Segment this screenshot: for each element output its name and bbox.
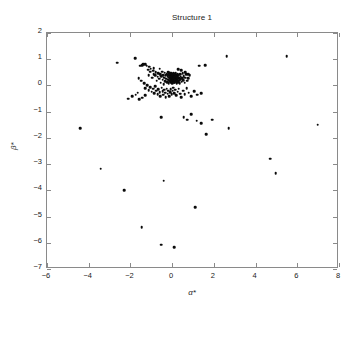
x-tick-label: 8 <box>336 271 340 280</box>
y-axis-tick <box>47 190 51 191</box>
data-point <box>186 118 189 121</box>
data-point <box>274 172 277 175</box>
data-point <box>200 122 203 125</box>
y-axis-label: β* <box>9 142 18 150</box>
x-axis-tick-top <box>89 33 90 37</box>
data-point <box>158 67 161 70</box>
data-point <box>165 96 168 99</box>
data-point <box>187 73 190 76</box>
y-axis-tick-right <box>333 33 337 34</box>
y-axis-tick-right <box>333 190 337 191</box>
chart-title: Structure 1 <box>46 13 338 22</box>
data-point <box>79 127 82 130</box>
y-axis-tick <box>47 269 51 270</box>
data-point <box>228 127 231 130</box>
data-point <box>123 189 126 192</box>
data-point <box>134 57 137 60</box>
data-point <box>204 64 207 67</box>
data-point <box>187 77 190 80</box>
plot-axes-box <box>46 32 338 268</box>
data-point <box>100 168 103 171</box>
y-axis-tick-right <box>333 112 337 113</box>
x-axis-tick <box>89 263 90 267</box>
data-point <box>190 95 193 98</box>
data-point <box>185 87 188 90</box>
x-axis-tick <box>172 263 173 267</box>
data-point <box>196 94 199 97</box>
x-axis-tick-top <box>214 33 215 37</box>
data-point <box>127 97 130 100</box>
data-point <box>211 118 214 121</box>
data-point <box>186 79 189 82</box>
y-axis-tick <box>47 164 51 165</box>
data-point <box>147 74 150 77</box>
data-point <box>183 93 186 96</box>
figure-canvas: Structure 1 −6−4−202468210−1−2−3−4−5−6−7… <box>0 0 355 339</box>
data-point <box>116 62 119 65</box>
data-point <box>193 90 196 93</box>
data-point <box>136 91 139 94</box>
data-point <box>160 116 163 119</box>
data-point <box>225 55 228 58</box>
data-point <box>180 96 183 99</box>
data-point <box>144 87 147 90</box>
x-axis-tick-top <box>130 33 131 37</box>
x-axis-tick-top <box>297 33 298 37</box>
x-axis-tick <box>214 263 215 267</box>
data-point <box>200 92 203 95</box>
y-axis-tick <box>47 243 51 244</box>
data-point <box>188 91 191 94</box>
y-axis-tick <box>47 217 51 218</box>
x-axis-tick-top <box>256 33 257 37</box>
data-point <box>153 92 156 95</box>
y-axis-tick <box>47 59 51 60</box>
data-point <box>163 180 166 183</box>
data-point <box>180 69 183 72</box>
y-axis-tick <box>47 138 51 139</box>
data-point <box>158 77 161 80</box>
data-point <box>140 226 143 229</box>
data-point <box>269 158 272 161</box>
y-axis-tick <box>47 112 51 113</box>
data-point <box>154 85 157 88</box>
y-axis-tick-right <box>333 217 337 218</box>
x-axis-tick <box>130 263 131 267</box>
data-point <box>152 87 155 90</box>
data-point <box>152 67 155 70</box>
data-point <box>175 94 178 97</box>
x-axis-tick-top <box>172 33 173 37</box>
data-point <box>144 94 147 97</box>
x-axis-tick <box>339 263 340 267</box>
y-axis-tick-right <box>333 59 337 60</box>
data-point <box>149 71 152 74</box>
y-axis-tick-right <box>333 243 337 244</box>
y-axis-tick-right <box>333 85 337 86</box>
y-axis-tick-right <box>333 164 337 165</box>
x-tick-label: 4 <box>252 271 256 280</box>
data-point <box>160 244 163 247</box>
x-axis-tick-top <box>339 33 340 37</box>
x-tick-label: −6 <box>42 271 51 280</box>
x-axis-tick <box>47 263 48 267</box>
data-point <box>131 95 134 98</box>
data-point <box>198 64 201 67</box>
x-axis-tick <box>256 263 257 267</box>
x-tick-label: 2 <box>211 271 215 280</box>
x-tick-label: −4 <box>83 271 92 280</box>
data-point <box>173 246 176 249</box>
x-axis-tick <box>297 263 298 267</box>
scatter-plot-area <box>47 33 337 267</box>
y-axis-tick-right <box>333 269 337 270</box>
x-tick-label: 0 <box>169 271 173 280</box>
data-point <box>182 89 185 92</box>
data-point <box>182 116 185 119</box>
data-point <box>195 119 198 122</box>
x-axis-label: α* <box>46 288 338 297</box>
data-point <box>286 55 289 58</box>
y-axis-tick <box>47 85 51 86</box>
y-axis-tick-right <box>333 138 337 139</box>
x-tick-label: 6 <box>294 271 298 280</box>
x-tick-label: −2 <box>125 271 134 280</box>
data-point <box>205 133 208 136</box>
data-point <box>190 113 193 116</box>
